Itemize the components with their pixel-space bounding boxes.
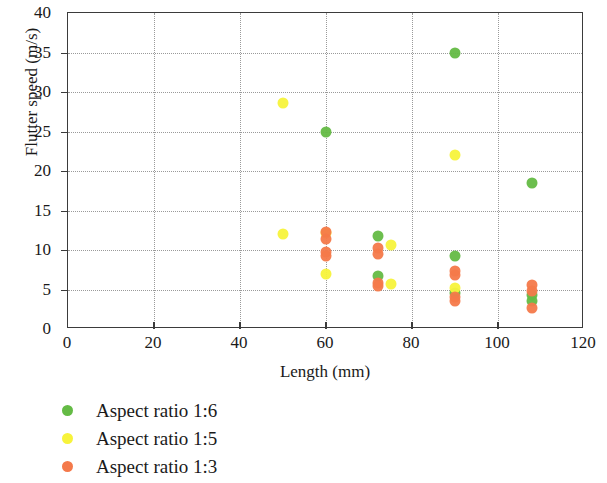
y-axis-tick-mark [61, 211, 68, 212]
x-axis-tick-mark [239, 322, 240, 329]
y-axis-title: Flutter speed (m/s) [22, 0, 42, 242]
data-point [278, 98, 289, 109]
x-axis-tick-label: 40 [231, 334, 248, 351]
data-point [372, 230, 383, 241]
y-axis-tick-label: 5 [43, 280, 52, 297]
data-point [527, 177, 538, 188]
data-point [321, 126, 332, 137]
gridline-horizontal [68, 92, 582, 93]
legend-item: Aspect ratio 1:3 [62, 454, 217, 479]
legend: Aspect ratio 1:6Aspect ratio 1:5Aspect r… [62, 398, 217, 479]
data-point [450, 296, 461, 307]
y-axis-tick-mark [61, 290, 68, 291]
legend-swatch-icon [62, 433, 73, 444]
x-axis-title: Length (mm) [67, 362, 583, 382]
data-point [385, 278, 396, 289]
legend-swatch-icon [62, 405, 73, 416]
x-axis-tick-label: 20 [145, 334, 162, 351]
data-point [321, 268, 332, 279]
y-axis-tick-mark [61, 53, 68, 54]
x-axis-tick-mark [153, 322, 154, 329]
y-axis-tick-mark [61, 92, 68, 93]
data-point [450, 47, 461, 58]
y-axis-tick-mark [61, 132, 68, 133]
plot-area [67, 12, 583, 328]
data-point [372, 248, 383, 259]
legend-swatch-icon [62, 461, 73, 472]
x-axis-tick-label: 80 [403, 334, 420, 351]
scatter-plot-figure: 0510152025303540 020406080100120 Length … [0, 0, 607, 483]
data-point [372, 281, 383, 292]
gridline-vertical [498, 13, 499, 327]
data-point [527, 303, 538, 314]
legend-item: Aspect ratio 1:6 [62, 398, 217, 423]
data-point [450, 270, 461, 281]
legend-item: Aspect ratio 1:5 [62, 426, 217, 451]
gridlines [68, 13, 582, 327]
data-point [450, 251, 461, 262]
y-axis-tick-label: 0 [43, 320, 52, 337]
x-axis-tick-mark [497, 322, 498, 329]
legend-item-label: Aspect ratio 1:6 [96, 401, 217, 420]
gridline-vertical [240, 13, 241, 327]
x-axis-tick-labels: 020406080100120 [67, 334, 583, 360]
data-point [321, 233, 332, 244]
gridline-horizontal [68, 290, 582, 291]
gridline-horizontal [68, 171, 582, 172]
data-point [278, 229, 289, 240]
legend-item-label: Aspect ratio 1:5 [96, 429, 217, 448]
x-axis-tick-label: 0 [63, 334, 72, 351]
y-axis-tick-label: 10 [34, 241, 51, 258]
x-axis-tick-mark [325, 322, 326, 329]
data-point [321, 251, 332, 262]
gridline-vertical [412, 13, 413, 327]
gridline-vertical [154, 13, 155, 327]
x-axis-tick-label: 100 [484, 334, 510, 351]
data-point [450, 150, 461, 161]
gridline-horizontal [68, 53, 582, 54]
x-axis-tick-mark [411, 322, 412, 329]
data-point [385, 240, 396, 251]
data-point [527, 286, 538, 297]
gridline-vertical [326, 13, 327, 327]
y-axis-tick-mark [61, 171, 68, 172]
legend-item-label: Aspect ratio 1:3 [96, 457, 217, 476]
x-axis-tick-label: 120 [570, 334, 596, 351]
x-axis-tick-label: 60 [317, 334, 334, 351]
y-axis-tick-mark [61, 250, 68, 251]
gridline-horizontal [68, 211, 582, 212]
